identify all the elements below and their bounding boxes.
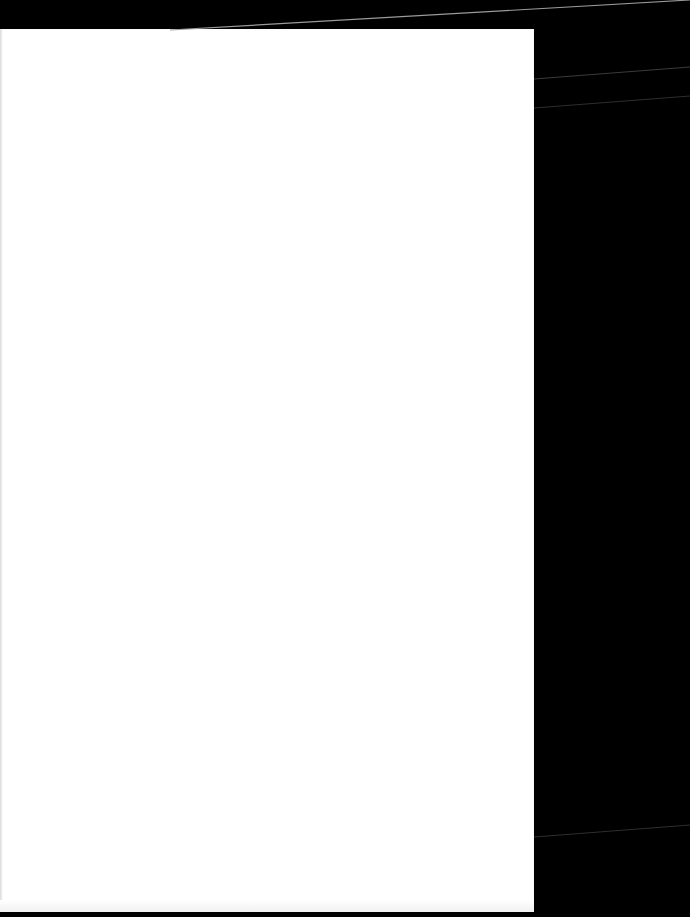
top-diagonal-line: [170, 0, 690, 30]
photo-scene: [0, 0, 690, 917]
right-faint-line-2: [534, 96, 690, 108]
right-faint-line-1: [534, 67, 690, 79]
blank-paper-sheet: [0, 29, 534, 912]
right-faint-line-3: [534, 825, 690, 837]
sheet-bottom-edge: [0, 900, 534, 912]
sheet-left-edge: [0, 29, 3, 912]
